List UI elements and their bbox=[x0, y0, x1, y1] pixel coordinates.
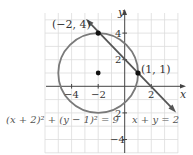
x-tick-label: 2 bbox=[148, 89, 154, 100]
x-axis-label: x bbox=[180, 88, 187, 101]
line-equation: x + y = 2 bbox=[132, 114, 179, 125]
coordinate-plane: y x −4 −2 2 4 2 2 −4 (−2, 4) (1, 1) (x +… bbox=[0, 0, 193, 155]
point-label: (1, 1) bbox=[141, 63, 171, 76]
circle-equation: (x + 2)² + (y − 1)² = 9 bbox=[6, 114, 120, 125]
point-label: (−2, 4) bbox=[52, 18, 91, 31]
y-tick-label: 4 bbox=[115, 28, 121, 39]
y-axis-label: y bbox=[117, 6, 125, 19]
point-center bbox=[96, 71, 101, 76]
y-tick-label: −4 bbox=[110, 134, 125, 145]
point-intersection-1 bbox=[96, 30, 101, 35]
x-tick-label: −2 bbox=[91, 89, 106, 100]
x-tick-label: −4 bbox=[64, 89, 79, 100]
grid bbox=[45, 13, 178, 153]
point-intersection-2 bbox=[135, 70, 140, 75]
y-tick-label: 2 bbox=[115, 54, 121, 65]
